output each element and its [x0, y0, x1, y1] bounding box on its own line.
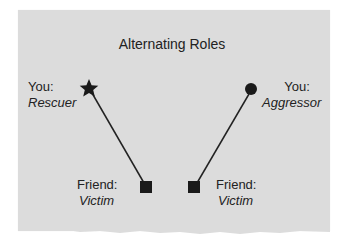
node-role-aggressor: Aggressor	[262, 95, 320, 111]
node-label-line1: Friend:	[216, 177, 256, 192]
circle-icon	[245, 83, 257, 95]
node-label-friend-victim-right: Friend: Victim	[216, 177, 256, 209]
torn-edge	[18, 226, 330, 234]
node-role-victim: Victim	[216, 193, 256, 209]
star-icon	[80, 79, 99, 97]
node-label-line1: Friend:	[77, 177, 117, 192]
square-icon	[188, 181, 200, 193]
node-label-you-rescuer: You: Rescuer	[28, 79, 76, 111]
node-label-you-aggressor: You: Aggressor	[262, 79, 320, 111]
edge-rescuer-to-victim	[92, 93, 144, 183]
node-label-line1: You:	[28, 79, 54, 94]
node-role-rescuer: Rescuer	[28, 95, 76, 111]
square-icon	[140, 181, 152, 193]
edge-aggressor-to-victim	[197, 94, 249, 183]
diagram-title: Alternating Roles	[0, 35, 344, 53]
node-label-friend-victim-left: Friend: Victim	[77, 177, 117, 209]
node-label-line1: You:	[262, 79, 320, 95]
node-role-victim: Victim	[77, 193, 117, 209]
